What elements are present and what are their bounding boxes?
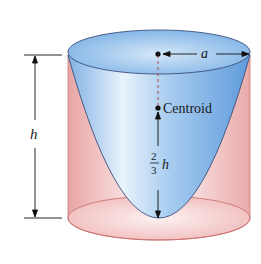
paraboloid-cylinder-diagram: a Centroid 2 3 h h: [0, 0, 261, 264]
fraction-numerator: 2: [151, 150, 157, 162]
fraction-variable: h: [162, 157, 169, 172]
top-center-point: [155, 51, 160, 56]
height-label: h: [30, 126, 38, 142]
radius-label: a: [201, 46, 208, 61]
centroid-point: [155, 105, 160, 110]
fraction-denominator: 3: [151, 164, 157, 176]
centroid-label: Centroid: [163, 101, 212, 116]
